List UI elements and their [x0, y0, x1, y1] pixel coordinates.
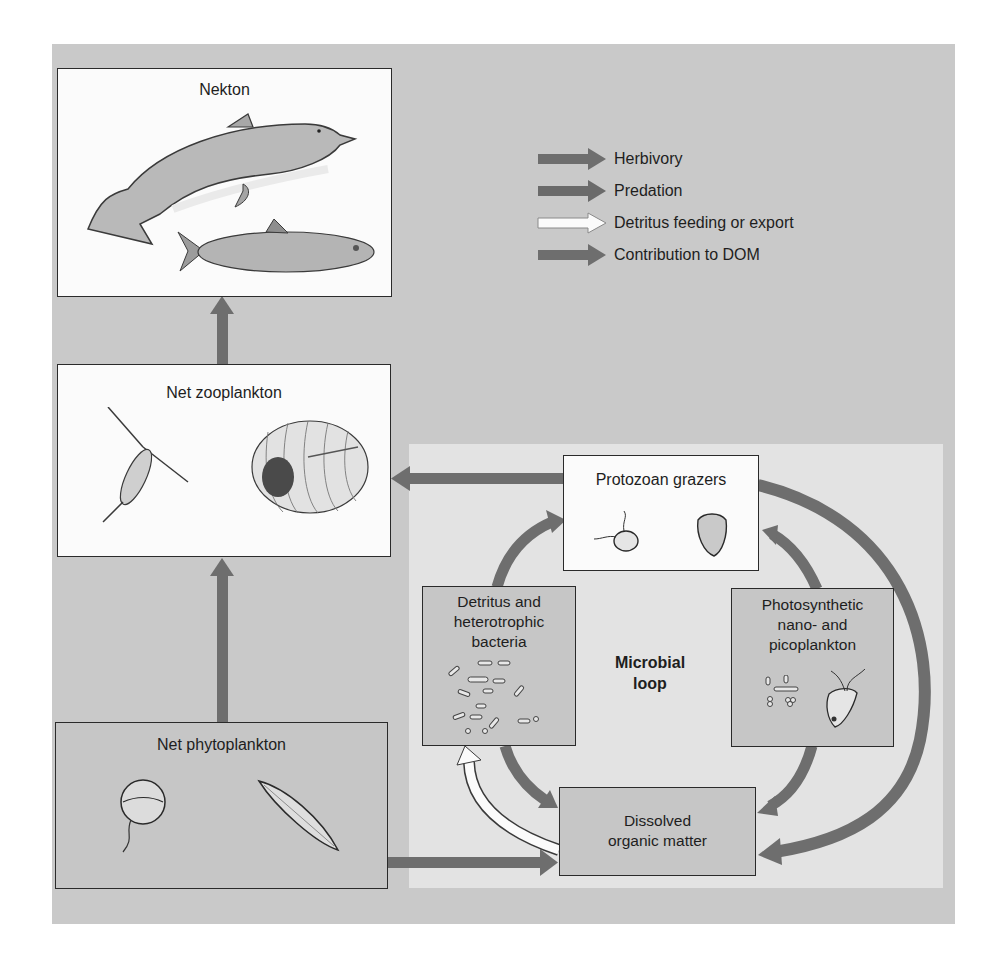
photosynthetic-label-line-3: picoplankton [732, 635, 893, 655]
bacteria-illustration [448, 659, 558, 739]
copepod-illustration [88, 407, 198, 527]
arrow-phytoplankton-to-zooplankton [210, 558, 234, 723]
dark-arrow-icon [536, 244, 608, 266]
white-arrow-icon [536, 212, 608, 234]
detritus-label-line-1: Detritus and [423, 592, 575, 612]
arrow-photosynthetic-to-dom [770, 746, 812, 806]
flagellate-illustration [594, 511, 644, 557]
node-net-phytoplankton: Net phytoplankton [55, 722, 388, 889]
dark-arrow-icon [536, 180, 608, 202]
node-protozoan-grazers: Protozoan grazers [563, 455, 759, 571]
dom-label-line-1: Dissolved [560, 811, 755, 831]
dom-label-line-2: organic matter [560, 831, 755, 851]
microbial-loop-label-line-1: Microbial [600, 652, 700, 673]
arrow-detritus-to-protozoan [497, 522, 552, 587]
legend-label: Herbivory [614, 150, 682, 168]
microbial-loop-label-line-2: loop [600, 673, 700, 694]
legend-item-predation: Predation [536, 175, 794, 207]
fish-illustration [176, 219, 376, 289]
diatom-illustration [256, 778, 346, 858]
legend-label: Detritus feeding or export [614, 214, 794, 232]
legend-item-contribution-dom: Contribution to DOM [536, 239, 794, 271]
legend: Herbivory Predation Detritus feeding or … [536, 143, 794, 271]
arrow-protozoan-to-zooplankton [391, 466, 564, 491]
dark-arrow-icon [536, 148, 608, 170]
dinoflagellate-illustration [111, 778, 171, 858]
legend-label: Contribution to DOM [614, 246, 760, 264]
node-net-zooplankton: Net zooplankton [57, 364, 391, 557]
nekton-label: Nekton [58, 80, 391, 100]
nanoflagellate-illustration [817, 669, 867, 729]
node-photosynthetic-plankton: Photosynthetic nano- and picoplankton [731, 588, 894, 747]
detritus-label-line-3: bacteria [423, 632, 575, 652]
node-nekton: Nekton [57, 68, 392, 297]
zooplankton-label: Net zooplankton [58, 383, 390, 403]
ciliate-illustration [694, 506, 730, 558]
arrow-photosynthetic-to-protozoan [772, 534, 817, 589]
photosynthetic-label-line-1: Photosynthetic [732, 595, 893, 615]
legend-item-herbivory: Herbivory [536, 143, 794, 175]
node-dissolved-organic-matter: Dissolved organic matter [559, 787, 756, 876]
larva-illustration [248, 417, 378, 527]
arrow-detritus-to-dom [505, 746, 545, 800]
picoplankton-illustration [764, 675, 804, 711]
detritus-label-line-2: heterotrophic [423, 612, 575, 632]
protozoan-label: Protozoan grazers [564, 470, 758, 490]
microbial-loop-label: Microbial loop [600, 652, 700, 694]
arrow-zooplankton-to-nekton [210, 296, 234, 366]
photosynthetic-label-line-2: nano- and [732, 615, 893, 635]
legend-item-detritus-feeding: Detritus feeding or export [536, 207, 794, 239]
arrow-phytoplankton-to-dom [387, 849, 558, 876]
node-detritus-bacteria: Detritus and heterotrophic bacteria [422, 586, 576, 746]
phytoplankton-label: Net phytoplankton [56, 735, 387, 755]
legend-label: Predation [614, 182, 683, 200]
